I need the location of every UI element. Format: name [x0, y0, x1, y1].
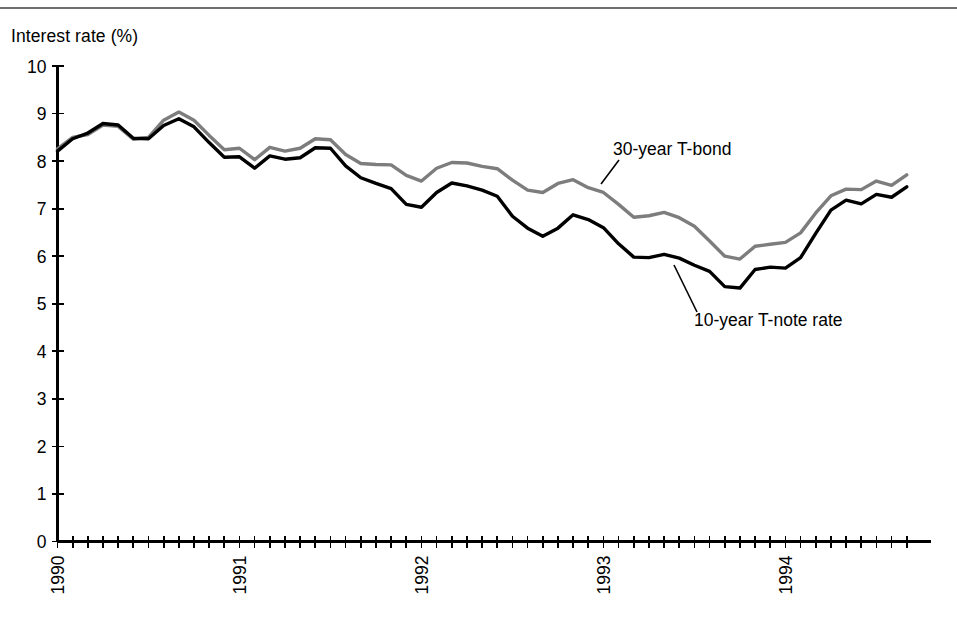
annotation-label: 10-year T-note rate — [694, 310, 843, 330]
series-line-tbond — [58, 112, 907, 259]
chart-figure: Interest rate (%) 012345678910 199019911… — [0, 0, 957, 634]
line-chart-plot: 012345678910 19901991199219931994 30-yea… — [0, 0, 957, 634]
y-tick-label: 6 — [37, 247, 47, 267]
y-tick-label: 0 — [37, 532, 47, 552]
data-series-group — [58, 112, 907, 288]
y-tick-label: 1 — [37, 484, 47, 504]
y-tick-label: 2 — [37, 437, 47, 457]
axis-lines-group — [58, 66, 932, 542]
y-tick-label: 9 — [37, 104, 47, 124]
x-tick-label: 1993 — [594, 556, 614, 595]
y-tick-label: 8 — [37, 152, 47, 172]
annotation-group: 30-year T-bond10-year T-note rate — [601, 139, 843, 330]
y-tick-label: 7 — [37, 199, 47, 219]
y-tick-label: 4 — [37, 342, 47, 362]
x-tick-label: 1991 — [230, 556, 250, 595]
annotation-leader-line — [674, 265, 697, 312]
y-tick-label: 10 — [27, 57, 47, 77]
annotation-label: 30-year T-bond — [613, 139, 731, 159]
x-tick-label: 1994 — [776, 555, 796, 594]
annotation-leader-line — [601, 160, 619, 184]
series-line-tnote — [58, 119, 907, 288]
x-tick-label: 1992 — [412, 556, 432, 595]
x-tick-label: 1990 — [48, 555, 68, 594]
y-tick-label: 3 — [37, 389, 47, 409]
y-tick-label: 5 — [37, 294, 47, 314]
x-axis-tick-group: 19901991199219931994 — [48, 536, 907, 595]
